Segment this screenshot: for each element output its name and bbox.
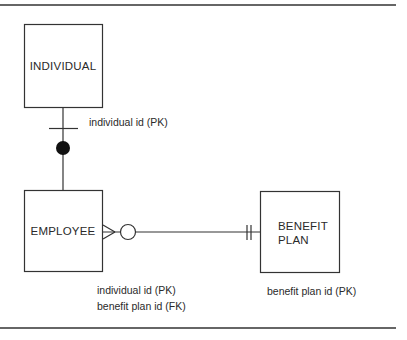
- entity-benefit-plan-label-line1: BENEFIT: [278, 220, 328, 232]
- filled-circle-icon: [56, 141, 70, 155]
- er-diagram: INDIVIDUAL individual id (PK) EMPLOYEE i…: [0, 0, 407, 340]
- entity-benefit-plan[interactable]: BENEFIT PLAN: [261, 192, 340, 273]
- employee-attribute-fk: benefit plan id (FK): [97, 300, 186, 312]
- entity-individual[interactable]: INDIVIDUAL: [25, 25, 103, 108]
- relationship-employee-benefit-plan: [103, 225, 261, 241]
- entity-employee[interactable]: EMPLOYEE: [25, 191, 103, 272]
- crows-foot-icon-lower: [103, 232, 115, 239]
- benefit-plan-attribute-pk: benefit plan id (PK): [267, 285, 356, 297]
- relationship-individual-employee: [49, 108, 78, 191]
- entity-individual-label: INDIVIDUAL: [30, 60, 97, 72]
- entity-benefit-plan-box: [261, 192, 340, 273]
- entity-benefit-plan-label-line2: PLAN: [278, 234, 309, 246]
- employee-attribute-pk: individual id (PK): [97, 284, 176, 296]
- open-circle-icon: [121, 225, 136, 240]
- crows-foot-icon: [103, 225, 115, 232]
- entity-employee-label: EMPLOYEE: [31, 225, 96, 237]
- individual-attribute-pk: individual id (PK): [89, 116, 168, 128]
